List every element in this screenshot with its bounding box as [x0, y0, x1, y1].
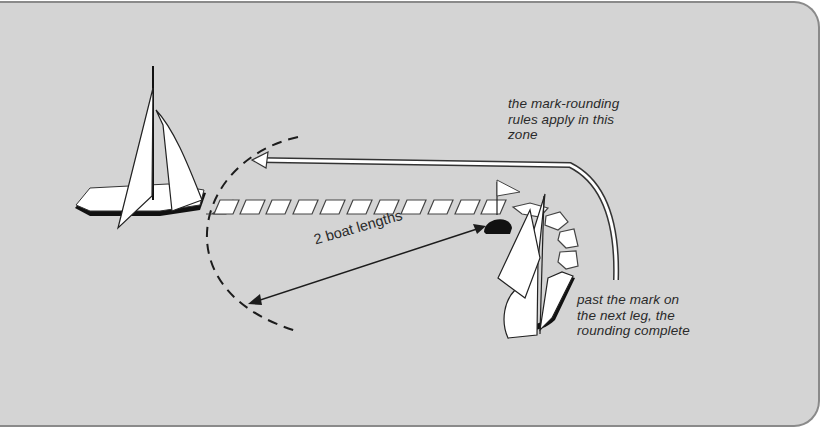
zone-note-line-3: zone [508, 127, 619, 143]
distance-arrow [248, 224, 486, 305]
complete-note-line-1: past the mark on [577, 292, 690, 308]
sailboat-left [75, 66, 206, 228]
diagram-canvas [0, 0, 826, 439]
complete-note-line-2: the next leg, the [577, 308, 690, 324]
zone-note-line-1: the mark-rounding [508, 96, 619, 112]
complete-note: past the mark on the next leg, the round… [577, 292, 690, 339]
zone-note-line-2: rules apply in this [508, 112, 619, 128]
zone-note: the mark-rounding rules apply in this zo… [508, 96, 619, 143]
complete-note-line-3: rounding complete [577, 323, 690, 339]
